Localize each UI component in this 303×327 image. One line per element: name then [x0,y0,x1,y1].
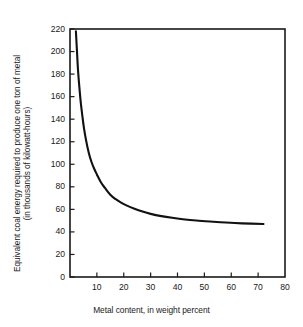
x-tick-label: 50 [194,283,214,292]
y-tick-label: 60 [43,205,65,214]
y-tick-label: 40 [43,227,65,236]
y-tick-label: 220 [43,25,65,34]
chart-figure: Equivalent coal energy required to produ… [0,0,303,327]
y-tick-label: 140 [43,115,65,124]
x-tick-label: 40 [168,283,188,292]
y-tick-label: 160 [43,92,65,101]
y-tick-label: 120 [43,137,65,146]
y-axis-label-line-1: Equivalent coal energy required to produ… [12,55,23,272]
y-tick-label: 200 [43,47,65,56]
x-tick-label: 20 [114,283,134,292]
y-tick-label: 80 [43,182,65,191]
x-axis-label: Metal content, in weight percent [0,305,303,315]
y-tick-label: 0 [43,273,65,282]
x-tick-label: 30 [141,283,161,292]
plot-background [70,29,285,277]
y-axis-label-line-2: (in thousands of kilowatt-hours) [22,107,33,221]
x-tick-label: 10 [87,283,107,292]
x-tick-label: 70 [248,283,268,292]
y-tick-label: 100 [43,160,65,169]
y-tick-label: 20 [43,250,65,259]
y-tick-label: 180 [43,70,65,79]
x-tick-label: 80 [275,283,295,292]
x-tick-label: 60 [221,283,241,292]
